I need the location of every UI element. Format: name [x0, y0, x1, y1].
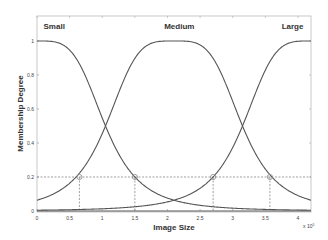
x-tick-label: 0.5 [66, 215, 73, 221]
x-tick-label: 3 [231, 215, 234, 221]
x-multiplier-exponent: 5 [312, 223, 314, 227]
membership-function-chart: 00.511.522.533.54 00.20.40.60.81 SmallMe… [0, 0, 328, 240]
y-tick-label: 0.4 [27, 140, 34, 146]
y-tick-label: 0.6 [27, 106, 34, 112]
x-tick-label: 1 [101, 215, 104, 221]
curve-label-small: Small [44, 22, 65, 31]
curve-label-medium: Medium [164, 22, 194, 31]
x-tick-label: 0 [36, 215, 39, 221]
y-tick-label: 0 [31, 208, 34, 214]
y-tick-label: 1 [31, 38, 34, 44]
y-tick-label: 0.2 [27, 174, 34, 180]
x-tick-label: 2.5 [197, 215, 204, 221]
x-tick-label: 1.5 [131, 215, 138, 221]
x-axis-label: Image Size [153, 223, 195, 232]
x-multiplier-base: x 10 [303, 223, 313, 229]
x-tick-label: 3.5 [262, 215, 269, 221]
chart-background [0, 0, 328, 240]
x-tick-label: 2 [166, 215, 169, 221]
y-tick-label: 0.8 [27, 72, 34, 78]
curve-label-large: Large [282, 22, 304, 31]
y-axis-label: Membership Degree [16, 75, 25, 152]
x-tick-label: 4 [297, 215, 300, 221]
